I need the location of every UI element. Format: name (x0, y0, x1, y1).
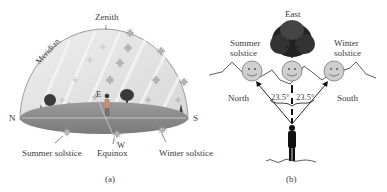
observer-figure-b (288, 125, 296, 161)
label-east-b: East (285, 10, 301, 19)
label-summer-line1: Summer (230, 39, 261, 48)
arrowhead-summer (256, 81, 262, 87)
panel-a-diagram (0, 0, 387, 192)
caption-b: (b) (286, 175, 297, 184)
center-dashed-line (291, 85, 293, 123)
sunrise-summer-marker (62, 127, 72, 137)
caption-a: (a) (105, 175, 115, 184)
label-north-b: North (228, 94, 249, 103)
sun-winter-solstice (324, 61, 344, 81)
label-winter-solstice-a: Winter solstice (159, 149, 213, 158)
label-equinox-a: Equinox (97, 149, 128, 158)
tree-east (270, 20, 315, 58)
sun-summer-solstice (242, 61, 262, 81)
label-leaders (55, 134, 166, 144)
label-south-a: S (193, 114, 198, 123)
sunrise-winter-marker (157, 125, 167, 135)
arrowhead-winter (322, 81, 328, 87)
label-angle-left: 23.5° (271, 93, 289, 102)
label-winter-line1: Winter (334, 39, 359, 48)
sunrise-equinox-marker (112, 129, 122, 139)
label-north-a: N (9, 114, 16, 123)
label-summer-solstice-a: Summer solstice (22, 149, 82, 158)
label-angle-right: 23.5° (296, 93, 314, 102)
sun-equinox (282, 61, 302, 81)
label-winter-line2: solstice (334, 49, 361, 58)
label-south-b: South (337, 94, 358, 103)
label-east-a: E (96, 90, 101, 99)
label-zenith: Zenith (95, 13, 119, 22)
label-summer-line2: solstice (230, 49, 257, 58)
